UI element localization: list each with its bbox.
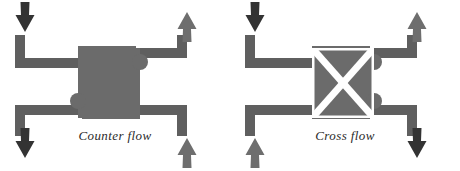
exchanger-block-cross-flow: [312, 46, 382, 119]
pipe-top-right: [136, 35, 187, 58]
caption-counter-flow: Counter flow: [0, 128, 230, 144]
pipe-top-right: [370, 35, 417, 58]
arrow-top-left-inlet: [246, 2, 265, 32]
diagram-counter-flow: Counter flow: [0, 0, 230, 171]
pipe-top-left: [15, 35, 83, 68]
pipe-top-left: [245, 35, 318, 68]
diagram-cross-flow: Cross flow: [230, 0, 460, 171]
heat-exchanger-figure: Counter flow: [0, 0, 460, 171]
arrow-top-left-inlet: [16, 2, 35, 32]
exchanger-block-counter-flow: [70, 46, 148, 119]
caption-cross-flow: Cross flow: [230, 128, 460, 144]
